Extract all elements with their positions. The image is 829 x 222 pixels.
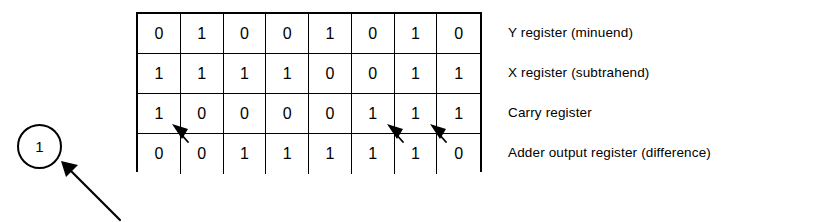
bit-cell: 0 — [181, 94, 224, 133]
bit-cell: 0 — [437, 134, 480, 174]
row-label-carry-register: Carry register — [508, 105, 592, 120]
bit-cell: 1 — [224, 54, 267, 93]
bit-cell: 1 — [266, 134, 309, 174]
bit-cell: 0 — [437, 14, 480, 53]
bit-cell: 1 — [224, 134, 267, 174]
bit-cell: 1 — [309, 134, 352, 174]
bit-grid: 0 1 0 0 1 0 1 0 1 1 1 1 0 0 1 1 1 0 0 0 … — [136, 12, 482, 172]
bit-cell: 1 — [309, 14, 352, 53]
row-label-adder-output-register: Adder output register (difference) — [508, 145, 711, 160]
bit-cell: 0 — [138, 134, 181, 174]
bit-cell: 1 — [395, 94, 438, 133]
bit-cell: 0 — [138, 14, 181, 53]
register-diagram-figure: 1 0 1 0 0 1 0 1 0 1 1 1 1 0 0 1 1 — [0, 0, 829, 222]
bit-cell: 1 — [395, 134, 438, 174]
bit-cell: 1 — [352, 134, 395, 174]
bit-cell: 1 — [266, 54, 309, 93]
bit-cell: 1 — [395, 54, 438, 93]
bit-cell: 1 — [181, 14, 224, 53]
callout-arrow-icon — [48, 150, 148, 222]
bit-cell: 0 — [309, 54, 352, 93]
bit-cell: 1 — [138, 94, 181, 133]
bit-cell: 0 — [266, 94, 309, 133]
bit-cell: 0 — [352, 14, 395, 53]
bit-cell: 0 — [266, 14, 309, 53]
row-label-x-register: X register (subtrahend) — [508, 65, 650, 80]
bit-cell: 1 — [352, 94, 395, 133]
bit-cell: 0 — [181, 134, 224, 174]
bit-cell: 1 — [437, 94, 480, 133]
bit-cell: 0 — [309, 94, 352, 133]
bit-cell: 1 — [395, 14, 438, 53]
callout-number: 1 — [35, 139, 43, 154]
table-row: 1 1 1 1 0 0 1 1 — [138, 54, 480, 94]
bit-cell: 0 — [352, 54, 395, 93]
bit-cell: 1 — [181, 54, 224, 93]
bit-cell: 0 — [224, 94, 267, 133]
bit-cell: 0 — [224, 14, 267, 53]
row-label-y-register: Y register (minuend) — [508, 25, 633, 40]
table-row: 0 1 0 0 1 0 1 0 — [138, 14, 480, 54]
bit-cell: 1 — [138, 54, 181, 93]
table-row: 0 0 1 1 1 1 1 0 — [138, 134, 480, 174]
bit-cell: 1 — [437, 54, 480, 93]
table-row: 1 0 0 0 0 1 1 1 — [138, 94, 480, 134]
